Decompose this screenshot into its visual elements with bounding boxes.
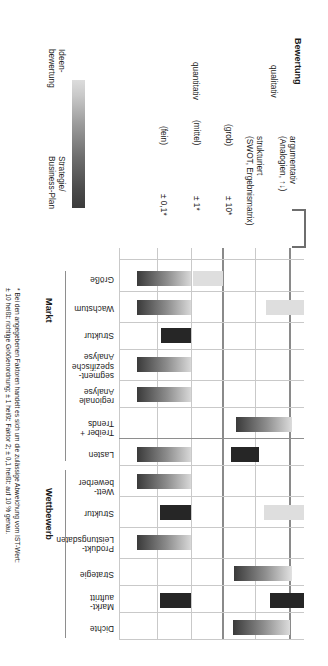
factor-label-markt-auftritt: Markt- auftritt <box>90 592 114 611</box>
factor-label-wettbewerber: Wett- bewerber <box>79 477 114 496</box>
grid-hline-0 <box>119 639 304 640</box>
legend-label-ideenbewertung: Ideen- bewertung <box>47 49 66 88</box>
bar-struktur-markt <box>161 328 191 343</box>
grid-vline-quantitativ-mittel <box>191 248 192 640</box>
factor-label-lasten: Lasten <box>88 450 114 459</box>
bar-groesse-right <box>137 271 191 286</box>
bar-struktur-wettbewerb-right <box>160 505 191 520</box>
grid-hline-2 <box>119 585 304 586</box>
group-label-markt: Markt <box>44 298 54 323</box>
qualitativ-bracket <box>292 209 306 248</box>
factor-label-strategie: Strategie <box>80 570 114 579</box>
factor-label-struktur-markt: Struktur <box>84 331 114 340</box>
grid-hline-8 <box>119 407 304 408</box>
bar-treiber-trends <box>236 417 292 432</box>
bar-regionale-analyse <box>137 387 191 402</box>
bar-markt-auftritt-left <box>270 593 304 608</box>
factor-label-wachstum: Wachstum <box>74 304 114 313</box>
bar-lasten-left <box>231 447 259 462</box>
bar-groesse-left <box>193 271 223 286</box>
legend-gradient-bar <box>72 80 85 208</box>
group-label-wettbewerb: Wettbewerb <box>44 488 54 540</box>
group-rule-markt <box>65 271 66 461</box>
axis-label-tol-grob: ± 10* <box>223 196 233 215</box>
axis-label-tol-fein: ± 0,1* <box>158 194 168 216</box>
bar-markt-auftritt-right <box>160 593 191 608</box>
bar-segment-spezifische-analyse <box>137 357 191 372</box>
axis-label-tol-mittel: ± 1* <box>191 196 201 211</box>
axis-group-quantitativ: quantitativ <box>190 62 200 100</box>
rotated-figure-canvas: Dichte Markt- auftritt Strategie Produkt… <box>0 0 328 666</box>
bar-lasten-right <box>137 447 191 462</box>
bar-strategie <box>234 566 292 581</box>
grid-hline-group-divider <box>119 438 304 439</box>
axis-label-mittel: (mittel) <box>191 120 201 145</box>
bar-wachstum-right <box>137 300 191 315</box>
axis-label-strukturiert: strukturiert <box>254 136 264 175</box>
axis-label-grob: (grob) <box>223 124 233 146</box>
grid-vline-right-edge <box>119 248 120 640</box>
grid-hline-11 <box>119 322 304 323</box>
chart-plot-area <box>119 248 304 640</box>
axis-title-bewertung: Bewertung <box>292 38 302 85</box>
grid-hline-13 <box>119 259 304 260</box>
axis-label-fein: (fein) <box>158 126 168 145</box>
bar-wettbewerber <box>137 474 191 489</box>
factor-label-regionale-analyse: regionale Analyse <box>79 386 114 405</box>
axis-label-analogien: (Analogien, ↑↓) <box>277 136 287 191</box>
grid-hline-3 <box>119 558 304 559</box>
axis-label-argumentativ: argumentativ <box>287 136 297 184</box>
axis-group-qualitativ: qualitativ <box>268 65 278 98</box>
factor-label-dichte: Dichte <box>90 624 114 633</box>
grid-hline-10 <box>119 349 304 350</box>
footnote-line-1: * Bei den angegebenen Faktoren handelt e… <box>12 288 21 563</box>
bar-produkt-leistungsdaten <box>137 535 191 550</box>
bar-struktur-wettbewerb-left <box>264 505 304 520</box>
grid-vline-quantitativ-grob <box>222 248 224 640</box>
factor-label-treiber-trends: Treiber + Trends <box>80 418 114 437</box>
grid-hline-12 <box>119 291 304 292</box>
grid-hline-4 <box>119 527 304 528</box>
factor-label-struktur-wettbewerb: Struktur <box>84 509 114 518</box>
legend-label-strategie-business-plan: Strategie/ Business-Plan <box>47 156 66 209</box>
bar-wachstum-left <box>266 300 304 315</box>
bar-dichte <box>233 620 290 635</box>
factor-label-groesse: Größe <box>90 275 114 284</box>
group-rule-wettbewerb <box>65 470 66 638</box>
footnote-line-2: ± 10 heißt: richtige Größenordnung; ± 1 … <box>3 288 12 534</box>
factor-label-segment-spezifische: segment- spezifische Analyse <box>72 352 114 380</box>
grid-hline-6 <box>119 465 304 466</box>
grid-hline-1 <box>119 612 304 613</box>
grid-hline-9 <box>119 380 304 381</box>
grid-hline-5 <box>119 496 304 497</box>
grid-vline-qualitativ-strukturiert <box>255 248 256 640</box>
axis-label-swot: (SWOT, Ergebnismatrix) <box>244 136 254 225</box>
